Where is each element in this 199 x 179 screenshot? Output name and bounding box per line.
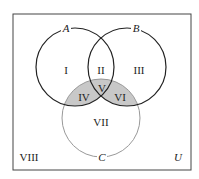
region-iv: IV bbox=[78, 91, 90, 103]
region-vii: VII bbox=[93, 116, 109, 128]
region-v: V bbox=[98, 82, 106, 94]
universe-label: U bbox=[174, 151, 183, 163]
venn-diagram: A B C U I II III IV V VI VII VIII bbox=[0, 0, 199, 179]
set-a-label: A bbox=[62, 22, 70, 34]
set-c-label: C bbox=[98, 151, 106, 163]
region-ii: II bbox=[97, 64, 105, 76]
region-viii: VIII bbox=[20, 151, 39, 163]
region-i: I bbox=[64, 64, 68, 76]
region-iii: III bbox=[134, 64, 145, 76]
set-b-label: B bbox=[133, 22, 140, 34]
region-vi: VI bbox=[114, 91, 126, 103]
